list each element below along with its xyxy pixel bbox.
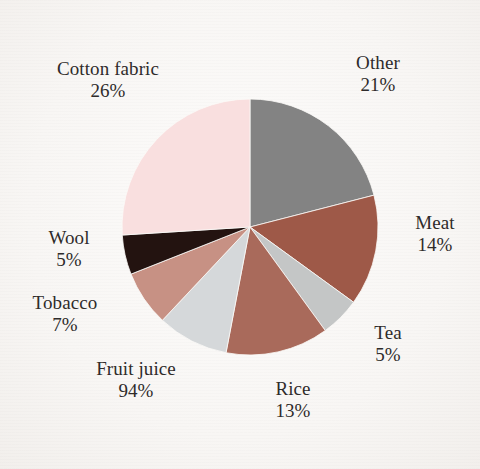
slice-label-wool-value: 5% <box>22 249 116 271</box>
slice-label-tea-name: Tea <box>374 322 401 343</box>
pie-chart: Cotton fabric 26% Other 21% Meat 14% Tea… <box>0 0 480 469</box>
slice-label-fruit-juice: Fruit juice 94% <box>62 358 210 403</box>
slice-label-fruit-juice-value: 94% <box>62 380 210 402</box>
pie-slice-cotton-fabric <box>122 99 250 235</box>
slice-label-wool-name: Wool <box>48 227 89 248</box>
slice-label-tea: Tea 5% <box>352 322 424 367</box>
slice-label-wool: Wool 5% <box>22 227 116 272</box>
slice-label-tea-value: 5% <box>352 344 424 366</box>
slice-label-tobacco: Tobacco 7% <box>6 292 124 337</box>
slice-label-tobacco-name: Tobacco <box>33 292 98 313</box>
slice-label-other: Other 21% <box>318 52 438 97</box>
slice-label-other-name: Other <box>356 52 400 73</box>
slice-label-meat-value: 14% <box>392 234 478 256</box>
slice-label-rice-value: 13% <box>248 400 338 422</box>
slice-label-meat: Meat 14% <box>392 212 478 257</box>
slice-label-cotton-fabric-value: 26% <box>18 80 198 102</box>
slice-label-rice-name: Rice <box>275 378 310 399</box>
slice-label-other-value: 21% <box>318 74 438 96</box>
slice-label-rice: Rice 13% <box>248 378 338 423</box>
slice-label-fruit-juice-name: Fruit juice <box>96 358 176 379</box>
slice-label-cotton-fabric: Cotton fabric 26% <box>18 58 198 103</box>
slice-label-cotton-fabric-name: Cotton fabric <box>57 58 159 79</box>
slice-label-meat-name: Meat <box>415 212 454 233</box>
slice-label-tobacco-value: 7% <box>6 314 124 336</box>
